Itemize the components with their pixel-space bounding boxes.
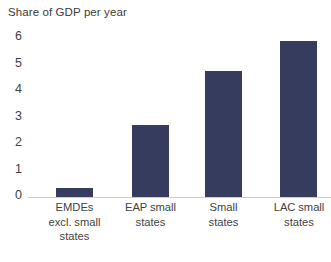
plot-area xyxy=(28,38,331,197)
bar-small-states xyxy=(205,71,242,197)
x-label-line: excl. small xyxy=(37,215,112,230)
x-label-line: Small xyxy=(186,200,261,215)
x-label-eap-small-states: EAP smallstates xyxy=(113,200,188,229)
x-label-lac-small-states: LAC smallstates xyxy=(260,200,331,229)
x-label-line: LAC small xyxy=(260,200,331,215)
y-tick-label-4: 4 xyxy=(2,83,22,96)
y-tick-label-6: 6 xyxy=(2,30,22,43)
x-label-line: EMDEs xyxy=(37,200,112,215)
chart-title: Share of GDP per year xyxy=(8,5,127,19)
y-tick-label-5: 5 xyxy=(2,57,22,70)
x-label-line: states xyxy=(113,215,188,230)
y-tick-label-3: 3 xyxy=(2,110,22,123)
x-label-line: states xyxy=(37,229,112,244)
y-tick-label-2: 2 xyxy=(2,136,22,149)
x-label-small-states: Smallstates xyxy=(186,200,261,229)
y-tick-label-1: 1 xyxy=(2,163,22,176)
x-label-emdes-excl-small-states: EMDEsexcl. smallstates xyxy=(37,200,112,244)
x-axis-baseline xyxy=(28,197,331,198)
x-label-line: states xyxy=(186,215,261,230)
y-axis: 6 5 4 3 2 1 0 xyxy=(0,30,28,208)
x-label-line: EAP small xyxy=(113,200,188,215)
bar-eap-small-states xyxy=(132,125,169,197)
bar-lac-small-states xyxy=(280,41,317,197)
x-axis-labels: EMDEsexcl. smallstates EAP smallstates S… xyxy=(28,200,331,262)
x-label-line: states xyxy=(260,215,331,230)
bar-chart-figure: Share of GDP per year 6 5 4 3 2 1 0 EMDE… xyxy=(0,0,331,262)
y-tick-label-0: 0 xyxy=(2,189,22,202)
